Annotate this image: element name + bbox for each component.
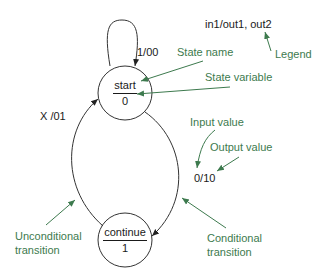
transition-label-self: 1/00: [137, 46, 158, 59]
state-start-variable: 0: [122, 94, 128, 108]
annotation-output-value: Output value: [210, 141, 272, 154]
state-diagram: start 0 continue 1 1/00 0/10 X /01 in1/o…: [0, 0, 329, 274]
annotation-unconditional-1: Unconditional: [15, 230, 82, 243]
state-continue-variable: 1: [122, 241, 128, 255]
state-start-name: start: [113, 79, 136, 94]
transition-label-continue-start: X /01: [40, 110, 66, 123]
state-start: start 0: [98, 66, 152, 120]
transition-label-start-continue: 0/10: [194, 172, 215, 185]
annotation-unconditional-2: transition: [15, 244, 60, 257]
self-loop-arrow: [107, 20, 137, 66]
state-continue: continue 1: [98, 213, 152, 267]
pointer-unconditional: [46, 200, 75, 225]
pointer-output-value: [217, 157, 239, 171]
annotation-state-name: State name: [177, 46, 233, 59]
annotation-input-value: Input value: [190, 116, 244, 129]
annotation-conditional-1: Conditional: [207, 232, 262, 245]
annotation-state-variable: State variable: [205, 71, 272, 84]
annotation-conditional-2: transition: [207, 246, 252, 259]
pointer-legend: [265, 32, 271, 51]
state-continue-name: continue: [103, 226, 147, 241]
pointer-conditional: [182, 198, 226, 228]
legend-format: in1/out1, out2: [205, 18, 272, 31]
legend-label: Legend: [275, 48, 312, 61]
